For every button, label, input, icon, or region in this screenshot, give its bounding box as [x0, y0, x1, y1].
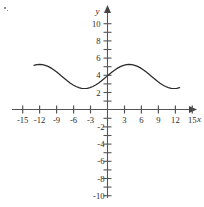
x-tick-label: 6 [139, 115, 144, 125]
x-tick-label: 3 [122, 115, 126, 125]
y-tick-label: 2 [96, 88, 100, 98]
y-tick-label: 4 [96, 70, 101, 80]
x-tick-label: -9 [53, 115, 60, 125]
x-tick-label: -3 [87, 115, 94, 125]
graph-figure: -15 -12 -9 -6 -3 3 6 9 12 15 10 8 6 4 2 … [0, 0, 204, 207]
x-tick-label: 9 [156, 115, 160, 125]
y-tick-label: 6 [96, 53, 101, 63]
y-tick-label: -8 [97, 174, 104, 184]
y-tick-label: -4 [97, 139, 105, 149]
x-axis-arrowhead-icon [189, 106, 197, 113]
y-tick-label: -2 [97, 122, 104, 132]
cosine-plot: -15 -12 -9 -6 -3 3 6 9 12 15 10 8 6 4 2 … [0, 0, 204, 207]
cosine-curve-path [34, 64, 180, 88]
x-axis-label: x [196, 114, 201, 124]
x-tick-label: -15 [17, 115, 28, 125]
x-tick-label: -6 [70, 115, 78, 125]
x-tick-label: 15 [188, 115, 197, 125]
y-tick-label: 10 [92, 19, 101, 29]
y-tick-label: -6 [97, 156, 105, 166]
y-axis-label: y [95, 6, 100, 16]
x-tick-label: 12 [171, 115, 180, 125]
y-tick-label: 8 [96, 36, 100, 46]
y-tick-label: -10 [93, 191, 104, 201]
y-axis-arrowhead-icon [104, 5, 111, 13]
x-tick-label: -12 [34, 115, 45, 125]
